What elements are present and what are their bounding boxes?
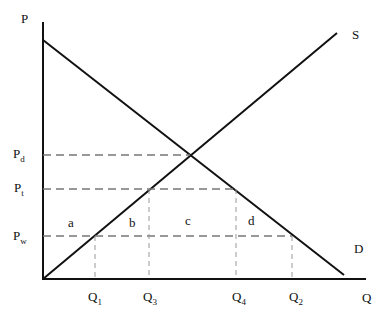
area-label-b: b bbox=[129, 216, 136, 229]
area-label-a: a bbox=[68, 216, 74, 229]
x-axis-label: Q bbox=[362, 291, 371, 304]
demand-label: D bbox=[354, 242, 363, 255]
y-axis-label: P bbox=[21, 12, 28, 25]
supply-curve bbox=[43, 33, 337, 279]
quantity-label-q3: Q3 bbox=[143, 290, 157, 307]
supply-label: S bbox=[352, 28, 359, 41]
quantity-label-q4: Q4 bbox=[232, 290, 246, 307]
price-label-pw: Pw bbox=[13, 229, 27, 246]
demand-curve bbox=[43, 40, 344, 275]
quantity-label-q1: Q1 bbox=[88, 290, 102, 307]
area-label-c: c bbox=[185, 214, 191, 227]
diagram-canvas bbox=[0, 0, 384, 317]
price-label-pt: Pt bbox=[14, 181, 24, 198]
area-label-d: d bbox=[248, 214, 255, 227]
quantity-label-q2: Q2 bbox=[289, 290, 303, 307]
price-label-pd: Pd bbox=[13, 147, 25, 164]
